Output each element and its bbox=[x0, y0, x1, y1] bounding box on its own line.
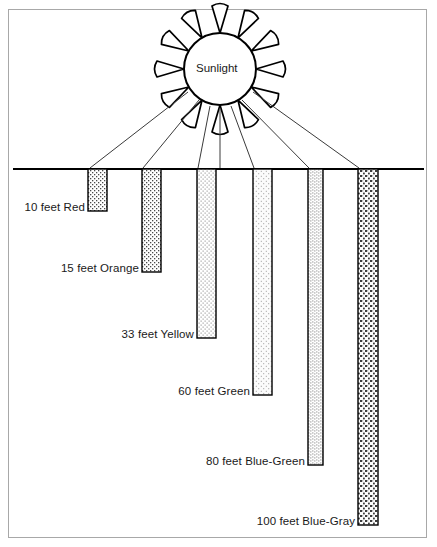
depth-label-yellow: 33 feet Yellow bbox=[122, 328, 194, 340]
depth-bar-orange bbox=[142, 169, 161, 272]
depth-label-blue-gray: 100 feet Blue-Gray bbox=[257, 515, 355, 527]
depth-bar-green bbox=[253, 169, 272, 395]
depth-bar-yellow bbox=[197, 169, 216, 338]
depth-label-green: 60 feet Green bbox=[178, 385, 250, 397]
depth-label-orange: 15 feet Orange bbox=[61, 262, 139, 274]
depth-bar-red bbox=[88, 169, 107, 211]
diagram-canvas: Sunlight 10 feet Red 15 feet Orange 33 f… bbox=[0, 0, 437, 547]
depth-bar-blue-green bbox=[308, 169, 323, 465]
sun-label: Sunlight bbox=[196, 62, 238, 74]
depth-label-blue-green: 80 feet Blue-Green bbox=[206, 455, 305, 467]
depth-bar-blue-gray bbox=[358, 169, 378, 525]
depth-label-red: 10 feet Red bbox=[24, 201, 85, 213]
depth-bar-group bbox=[88, 169, 378, 525]
